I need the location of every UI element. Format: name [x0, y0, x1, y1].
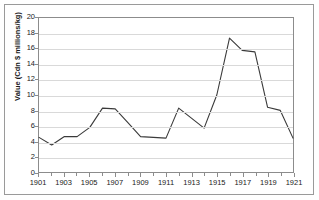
gridline-14	[39, 65, 293, 66]
line-series	[39, 18, 293, 172]
x-tick-1904	[76, 173, 77, 176]
gridline-4	[39, 143, 293, 144]
gridline-6	[39, 127, 293, 128]
x-tick-1915	[217, 173, 218, 177]
chart-figure: Value (Cdn $ millions/kg) 02468101214161…	[0, 0, 319, 200]
series-polyline	[39, 38, 293, 145]
x-axis-tick-marks	[38, 173, 294, 177]
x-tick-1917	[243, 173, 244, 177]
y-tick-label-8: 8	[5, 107, 35, 115]
gridline-18	[39, 34, 293, 35]
x-tick-1909	[140, 173, 141, 177]
x-tick-1918	[256, 173, 257, 176]
y-tick-label-0: 0	[5, 169, 35, 177]
x-tick-1906	[102, 173, 103, 176]
x-axis-tick-labels: 1901190319051907190919111913191519171919…	[38, 178, 294, 190]
x-tick-1903	[64, 173, 65, 177]
y-tick-label-6: 6	[5, 122, 35, 130]
x-tick-1902	[51, 173, 52, 176]
x-tick-1901	[38, 173, 39, 177]
y-tick-label-10: 10	[5, 91, 35, 99]
gridline-8	[39, 112, 293, 113]
y-tick-label-16: 16	[5, 44, 35, 52]
gridline-16	[39, 49, 293, 50]
x-tick-1921	[294, 173, 295, 177]
x-tick-1910	[153, 173, 154, 176]
x-tick-1912	[179, 173, 180, 176]
gridline-2	[39, 158, 293, 159]
gridline-10	[39, 96, 293, 97]
y-tick-label-18: 18	[5, 29, 35, 37]
y-tick-label-20: 20	[5, 13, 35, 21]
x-tick-1913	[192, 173, 193, 177]
x-tick-1920	[281, 173, 282, 176]
x-tick-1905	[89, 173, 90, 177]
x-tick-1919	[268, 173, 269, 177]
x-tick-1914	[204, 173, 205, 176]
x-tick-label-1921: 1921	[277, 178, 311, 187]
plot-area	[38, 17, 294, 173]
y-tick-label-2: 2	[5, 153, 35, 161]
gridline-12	[39, 80, 293, 81]
y-tick-label-4: 4	[5, 138, 35, 146]
x-tick-1908	[128, 173, 129, 176]
y-axis-tick-labels: 02468101214161820	[4, 17, 35, 173]
y-tick-label-12: 12	[5, 75, 35, 83]
x-tick-1916	[230, 173, 231, 176]
y-tick-label-14: 14	[5, 60, 35, 68]
x-tick-1911	[166, 173, 167, 177]
x-tick-1907	[115, 173, 116, 177]
